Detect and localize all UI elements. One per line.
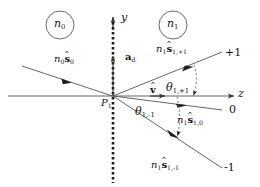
theta-minus1-label: θ1,-1 — [135, 106, 155, 119]
hat-accent-icon: ^ — [167, 40, 172, 48]
hat-accent-icon: ^ — [150, 81, 155, 89]
order-zero-ray-line — [113, 96, 222, 110]
theta-plus1-arc — [194, 65, 197, 96]
hat-accent-icon: ^ — [188, 111, 193, 119]
theta-plus1-label: θ1,+1 — [166, 82, 189, 95]
medium-right-label: n1 — [167, 18, 178, 31]
diffraction-diagram: n0 n1 y z ad n0^s0 ^v θ1,+1 θ1,-1 n1^s1,… — [0, 0, 260, 187]
hat-accent-icon: ^ — [65, 50, 70, 58]
incident-ray-line — [22, 66, 114, 97]
order-label-zero: 0 — [229, 104, 236, 115]
order-label-plus1: +1 — [225, 47, 241, 58]
grating-vector-label: ad — [125, 52, 135, 63]
diagram-canvas — [0, 0, 260, 187]
order-label-minus1: -1 — [224, 162, 235, 173]
order-minus1-vector-label: n1^s1,-1 — [151, 160, 179, 171]
incident-vector-label: n0^s0 — [54, 54, 74, 65]
order-plus1-vector-label: n1^s1,+1 — [156, 44, 187, 55]
order-zero-vector-label: n1^s1,0 — [177, 115, 203, 126]
z-axis-label: z — [238, 88, 244, 99]
surface-tangent-label: ^v — [150, 85, 156, 95]
order-minus1-ray-line — [113, 96, 222, 168]
y-axis-label: y — [121, 12, 127, 23]
order-minus1-arrowhead — [167, 130, 179, 139]
origin-point-label: P1 — [101, 98, 112, 109]
incident-ray-arrowhead — [62, 79, 72, 85]
medium-left-label: n0 — [54, 18, 65, 31]
hat-accent-icon: ^ — [162, 156, 167, 164]
order-plus1-arrowhead — [182, 66, 194, 72]
